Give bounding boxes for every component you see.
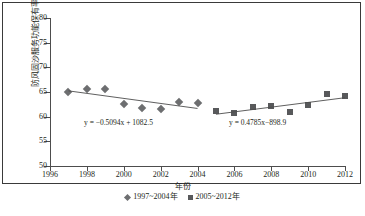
legend-item[interactable]: 2005~2012年 [188,192,240,202]
x-tick-label: 2010 [290,170,326,179]
legend-item-label: 2005~2012年 [196,192,240,202]
data-point-marker [287,109,293,115]
x-tick-label: 2008 [253,170,289,179]
y-tick-label: 50 [7,162,47,170]
chart-frame-border [2,2,361,184]
trendline-equation-2: y = 0.4785x−898.9 [229,118,286,127]
y-axis-title: 防风固沙服务功能保有率/% [30,0,42,98]
trendline-equation-1: y = −0.5094x + 1082.5 [84,118,153,127]
square-marker-icon [188,195,193,200]
chart-legend: 1997~2004年2005~2012年 [0,192,365,202]
data-point-marker [231,110,237,116]
x-tick-label: 2006 [216,170,252,179]
x-axis-title: 年份 [0,182,365,192]
legend-item[interactable]: 1997~2004年 [125,192,177,202]
x-tick-label: 2000 [106,170,142,179]
x-tick-label: 1996 [32,170,68,179]
data-point-marker [324,91,330,97]
data-point-marker [342,93,348,99]
x-tick-label: 2002 [143,170,179,179]
legend-item-label: 1997~2004年 [133,192,177,202]
x-tick-label: 2012 [327,170,363,179]
data-point-marker [250,104,256,110]
chart-figure: 50556065707580 1996199820002002200420062… [0,0,365,216]
data-point-marker [213,108,219,114]
data-point-marker [305,102,311,108]
y-tick-label: 60 [7,113,47,121]
y-tick-label: 55 [7,137,47,145]
y-axis-line [50,18,51,166]
diamond-marker-icon [124,193,131,200]
data-point-marker [268,103,274,109]
x-tick-label: 2004 [180,170,216,179]
x-tick-label: 1998 [69,170,105,179]
